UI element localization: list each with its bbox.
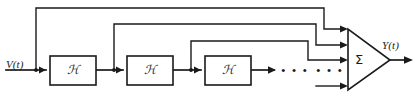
operator-block-0-label: ℋ	[50, 64, 96, 77]
ellipsis-chain: • • •	[281, 64, 309, 77]
summation-symbol: Σ	[355, 53, 363, 66]
arrow-into-block1	[116, 67, 123, 74]
arrow-feedforward-0	[340, 25, 348, 32]
arrow-feedforward-last	[340, 82, 348, 89]
arrow-feedforward-1	[340, 41, 348, 48]
ellipsis-taps: • • •	[316, 64, 344, 77]
output-signal-label: Y(t)	[382, 40, 399, 51]
output-path	[390, 56, 413, 64]
arrow-output	[404, 56, 413, 64]
block-diagram-figure: V(t) Y(t) Σ ℋ ℋ ℋ • • • • • •	[0, 0, 418, 103]
arrow-chain-continues	[268, 66, 276, 73]
feedforward-branch-last	[316, 82, 348, 89]
arrow-into-block2	[194, 67, 201, 74]
arrow-into-block0	[39, 67, 46, 74]
operator-block-2-label: ℋ	[205, 64, 251, 77]
input-signal-label: V(t)	[6, 59, 24, 70]
operator-block-1-label: ℋ	[127, 64, 173, 77]
